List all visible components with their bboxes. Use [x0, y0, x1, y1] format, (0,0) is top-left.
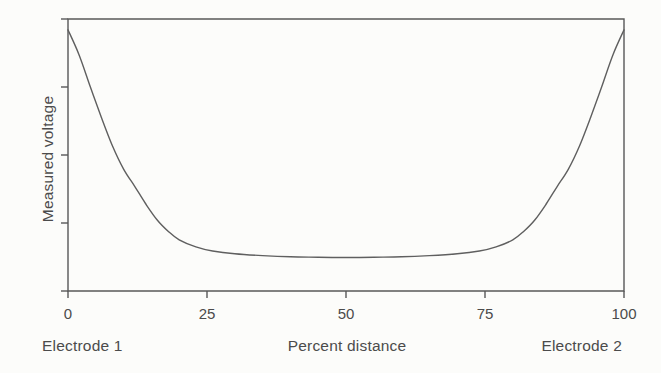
plot-frame — [68, 19, 624, 291]
x-tick-label-75: 75 — [477, 305, 494, 322]
x-tick-label-50: 50 — [338, 305, 355, 322]
y-axis-label: Measured voltage — [39, 96, 57, 222]
voltage-curve — [68, 30, 624, 258]
x-tick-label-0: 0 — [64, 305, 72, 322]
voltage-vs-distance-figure: Measured voltage 0255075100 Percent dist… — [0, 0, 661, 373]
x-tick-label-100: 100 — [611, 305, 636, 322]
x-axis-label: Percent distance — [288, 337, 407, 355]
electrode-1-label: Electrode 1 — [42, 337, 123, 355]
electrode-2-label: Electrode 2 — [541, 337, 622, 355]
x-tick-label-25: 25 — [199, 305, 216, 322]
plot-area — [0, 0, 661, 373]
